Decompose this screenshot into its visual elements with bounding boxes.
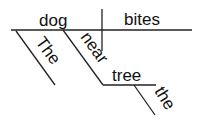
verb-word: bites (124, 10, 160, 29)
article-subject-word: The (32, 33, 65, 68)
preposition-word: near (77, 28, 113, 67)
article-object-slant (134, 85, 155, 115)
sentence-diagram: dog bites The near tree the (0, 0, 202, 123)
article-object-word: the (151, 83, 180, 113)
prep-object-word: tree (112, 66, 141, 85)
subject-word: dog (39, 11, 67, 30)
